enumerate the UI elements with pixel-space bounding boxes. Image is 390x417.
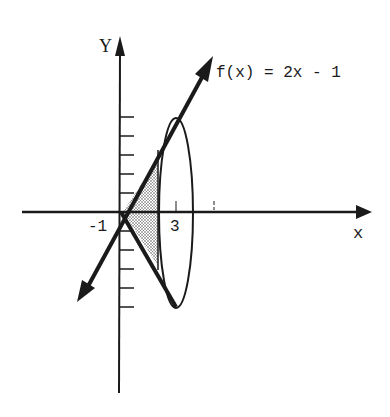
y-axis-label: Y [99,36,112,57]
diagram-canvas [0,0,390,417]
tick-label-neg-one: -1 [88,218,107,236]
tick-label-three: 3 [170,218,180,236]
x-axis-arrow-icon [356,205,372,219]
function-label: f(x) = 2x - 1 [216,64,341,82]
y-axis-arrow-icon [115,36,125,56]
x-axis [22,201,372,219]
line-arrow-up-icon [195,56,213,82]
x-axis-label: x [353,224,363,243]
line-arrow-down-icon [77,280,95,302]
